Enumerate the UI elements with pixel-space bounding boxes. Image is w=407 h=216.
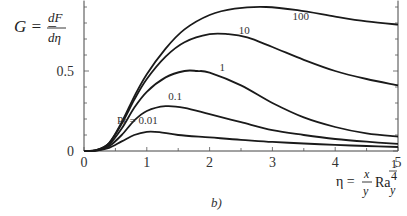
y-label-denominator: dη xyxy=(48,30,61,45)
x-axis-label: η = x y Ra y 1 4 xyxy=(336,157,397,198)
curve-label: 10 xyxy=(239,24,251,36)
x-label-ra: Ra xyxy=(375,175,391,190)
curve-pr-10 xyxy=(84,33,398,151)
x-label-lhs: η = xyxy=(336,174,355,189)
x-label-denominator: y xyxy=(362,184,369,198)
curve-label: 100 xyxy=(292,10,309,22)
y-axis-label: G = − dF dη xyxy=(14,10,66,45)
curve-label: 1 xyxy=(219,61,225,73)
curve-label: Pr = 0.01 xyxy=(117,114,158,126)
x-label-exp-den: 4 xyxy=(391,169,397,183)
x-tick-label: 1 xyxy=(143,155,150,170)
chart: 01234500.5Pr = 0.010.1110100 G = − dF dη… xyxy=(0,0,407,216)
curve-label: 0.1 xyxy=(168,90,182,102)
panel-label: b) xyxy=(211,195,222,210)
x-tick-label: 4 xyxy=(332,155,339,170)
x-label-subscript: y xyxy=(389,183,396,197)
y-tick-label: 0 xyxy=(67,144,74,159)
x-tick-label: 0 xyxy=(81,155,88,170)
x-tick-label: 3 xyxy=(269,155,276,170)
x-label-numerator: x xyxy=(363,167,370,181)
y-label-numerator: dF xyxy=(48,10,64,25)
y-tick-label: 0.5 xyxy=(57,64,75,79)
x-tick-label: 2 xyxy=(206,155,213,170)
